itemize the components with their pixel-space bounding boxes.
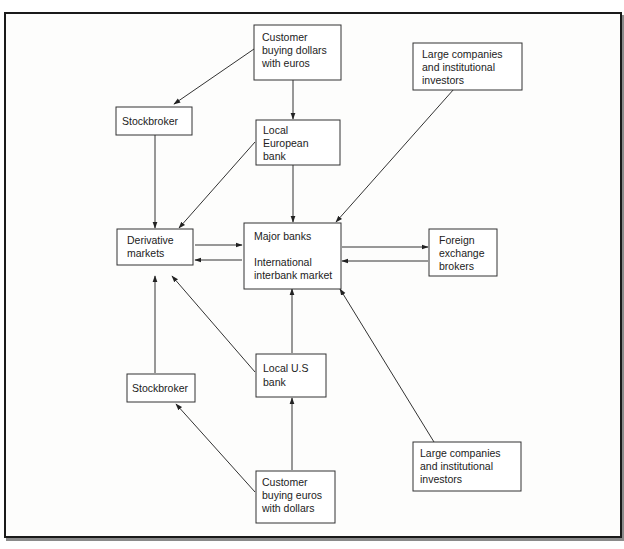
node-large-companies-top: Large companies and institutional invest… — [413, 43, 522, 90]
node-major-banks: Major banks International interbank mark… — [244, 223, 341, 289]
edge-local-european-to-derivative — [179, 142, 255, 228]
svg-text:investors: investors — [422, 74, 464, 86]
svg-text:Large companies: Large companies — [420, 447, 501, 459]
svg-text:with dollars: with dollars — [261, 502, 315, 514]
svg-text:and institutional: and institutional — [422, 61, 495, 73]
node-foreign-exchange-brokers: Foreign exchange brokers — [429, 229, 497, 276]
node-large-companies-bottom: Large companies and institutional invest… — [413, 442, 521, 491]
node-local-us-bank: Local U.S bank — [256, 354, 326, 397]
edge-customer-dollars-to-stockbroker — [174, 49, 254, 104]
svg-text:Customer: Customer — [262, 31, 308, 43]
svg-text:Stockbroker: Stockbroker — [122, 115, 179, 127]
svg-text:Large companies: Large companies — [422, 48, 503, 60]
node-derivative-markets: Derivative markets — [117, 229, 193, 265]
svg-text:Major banks: Major banks — [254, 230, 311, 242]
svg-text:markets: markets — [127, 247, 164, 259]
svg-text:interbank market: interbank market — [254, 269, 332, 281]
edge-large-top-to-major-banks — [336, 89, 454, 222]
svg-text:with euros: with euros — [261, 57, 310, 69]
svg-text:investors: investors — [420, 473, 462, 485]
svg-text:Foreign: Foreign — [439, 234, 475, 246]
svg-text:buying euros: buying euros — [262, 489, 322, 501]
node-customer-buying-euros: Customer buying euros with dollars — [256, 471, 335, 523]
svg-text:International: International — [254, 256, 312, 268]
node-stockbroker-bottom: Stockbroker — [127, 374, 195, 402]
svg-text:Stockbroker: Stockbroker — [132, 382, 189, 394]
node-customer-buying-dollars: Customer buying dollars with euros — [254, 25, 341, 80]
svg-text:and institutional: and institutional — [420, 460, 493, 472]
node-stockbroker-top: Stockbroker — [116, 107, 192, 135]
edge-local-us-to-derivative — [172, 276, 255, 372]
node-local-european-bank: Local European bank — [256, 120, 340, 165]
svg-text:Local U.S: Local U.S — [263, 362, 309, 374]
svg-text:Local: Local — [263, 124, 288, 136]
edge-large-bottom-to-major-banks — [340, 289, 434, 442]
svg-text:Derivative: Derivative — [127, 234, 174, 246]
svg-text:Customer: Customer — [262, 476, 308, 488]
svg-text:bank: bank — [263, 150, 287, 162]
exchange-flow-diagram: Customer buying dollars with euros Large… — [0, 0, 624, 549]
svg-text:exchange: exchange — [439, 247, 485, 259]
svg-text:buying dollars: buying dollars — [262, 44, 327, 56]
svg-text:bank: bank — [263, 376, 287, 388]
svg-text:brokers: brokers — [439, 260, 474, 272]
edge-customer-euros-to-stockbroker-bottom — [176, 404, 255, 492]
svg-text:European: European — [263, 137, 309, 149]
